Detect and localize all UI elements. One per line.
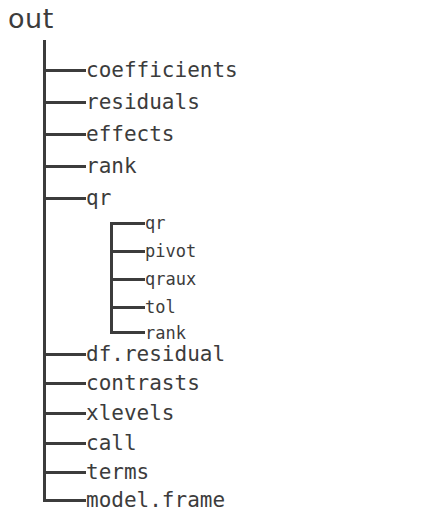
tree-node-terms: terms <box>86 462 149 483</box>
tree-node-df-residual: df.residual <box>86 344 225 365</box>
tree-node-model-frame: model.frame <box>86 490 225 511</box>
tree-connector-df-residual <box>43 353 86 356</box>
tree-node-rank: rank <box>86 156 137 177</box>
tree-node-call: call <box>86 433 137 454</box>
tree-connector-rank <box>43 165 86 168</box>
tree-connector-model-frame <box>43 499 86 502</box>
tree-connector-xlevels <box>43 412 86 415</box>
tree-connector-contrasts <box>43 382 86 385</box>
tree-connector-coefficients <box>43 69 86 72</box>
tree-connector-terms <box>43 471 86 474</box>
tree-node-qr-qr: qr <box>145 215 165 232</box>
tree-connector-qr-qr <box>110 222 145 225</box>
tree-connector-qr <box>43 197 86 200</box>
tree-connector-qr-pivot <box>110 250 145 253</box>
tree-root-label: out <box>8 2 54 36</box>
tree-connector-effects <box>43 133 86 136</box>
tree-connector-qr-tol <box>110 306 145 309</box>
tree-node-qr-rank: rank <box>145 325 186 342</box>
tree-node-qr-tol: tol <box>145 299 176 316</box>
tree-node-residuals: residuals <box>86 92 200 113</box>
tree-connector-qr-qraux <box>110 278 145 281</box>
tree-connector-call <box>43 442 86 445</box>
tree-node-coefficients: coefficients <box>86 60 238 81</box>
tree-node-qr-pivot: pivot <box>145 243 196 260</box>
tree-node-xlevels: xlevels <box>86 403 175 424</box>
tree-trunk-level-1 <box>43 40 46 502</box>
tree-node-effects: effects <box>86 124 175 145</box>
tree-node-contrasts: contrasts <box>86 373 200 394</box>
tree-node-qr: qr <box>86 188 111 209</box>
tree-node-qr-qraux: qraux <box>145 271 196 288</box>
tree-diagram: out coefficients residuals effects rank … <box>0 0 434 527</box>
tree-connector-residuals <box>43 101 86 104</box>
tree-connector-qr-rank <box>110 331 145 334</box>
